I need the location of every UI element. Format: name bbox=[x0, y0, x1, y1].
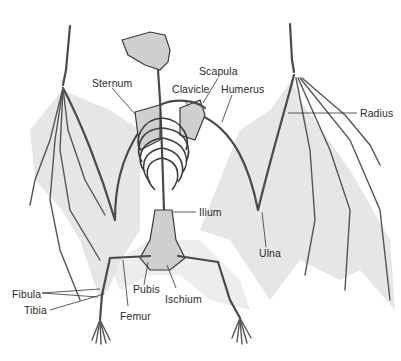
label-fibula: Fibula bbox=[12, 288, 41, 300]
leader-fibula-1 bbox=[42, 289, 100, 293]
label-tibia: Tibia bbox=[24, 304, 47, 316]
left-thumb-bone bbox=[63, 26, 70, 85]
bat-skeleton-diagram: Sternum Scapula Clavicle Humerus Radius … bbox=[0, 0, 401, 361]
label-pubis: Pubis bbox=[133, 283, 160, 295]
leader-sternum bbox=[112, 88, 135, 114]
skeleton-illustration bbox=[0, 0, 401, 361]
right-thumb-bone bbox=[290, 24, 294, 72]
leader-fibula-2 bbox=[42, 293, 98, 297]
right-foot bbox=[232, 318, 251, 344]
label-sternum: Sternum bbox=[92, 77, 132, 89]
label-ischium: Ischium bbox=[165, 293, 202, 305]
label-ilium: Ilium bbox=[199, 206, 222, 218]
label-femur: Femur bbox=[120, 310, 151, 322]
label-ulna: Ulna bbox=[259, 247, 281, 259]
label-clavicle: Clavicle bbox=[172, 83, 210, 95]
leader-tibia bbox=[50, 294, 104, 310]
label-humerus: Humerus bbox=[221, 83, 264, 95]
leader-humerus bbox=[222, 95, 232, 122]
skull bbox=[122, 32, 170, 70]
label-radius: Radius bbox=[360, 107, 393, 119]
label-scapula: Scapula bbox=[199, 65, 238, 77]
left-foot bbox=[92, 320, 110, 344]
